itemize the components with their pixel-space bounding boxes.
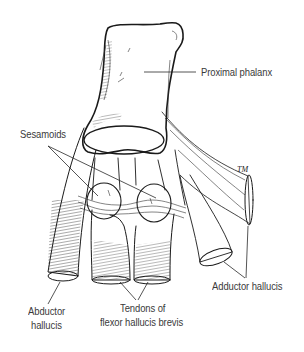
label-abductor-hallucis-line2: hallucis (31, 319, 62, 332)
leader-flexor-left (120, 282, 136, 300)
leader-adductor-oblique (246, 226, 248, 278)
label-flexor-line1: Tendons of (120, 302, 165, 315)
label-adductor-hallucis: Adductor hallucis (212, 280, 282, 293)
diagram-drawing: TM (0, 0, 304, 352)
label-proximal-phalanx: Proximal phalanx (201, 66, 272, 79)
proximal-phalanx-bone (83, 23, 183, 154)
leader-adductor-transverse (224, 262, 245, 278)
leader-flexor-right (138, 282, 148, 300)
adductor-hallucis-muscle: TM (162, 112, 253, 269)
anatomical-diagram: TM Proximal phalanx Sesamoids Adductor h… (0, 0, 304, 352)
label-sesamoids: Sesamoids (20, 128, 66, 141)
sesamoid-bones (78, 183, 186, 222)
artist-signature: TM (237, 165, 249, 174)
label-abductor-hallucis-line1: Abductor (28, 305, 65, 318)
label-flexor-line2: flexor hallucis brevis (100, 316, 183, 329)
abductor-hallucis-muscle (48, 128, 96, 281)
flexor-hallucis-brevis-tendons (91, 150, 185, 284)
leader-abductor (48, 282, 60, 304)
lateral-sesamoid (137, 184, 171, 222)
